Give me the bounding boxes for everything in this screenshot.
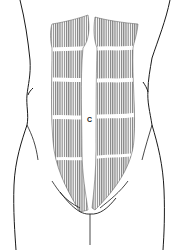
figure-label: C [87,116,92,123]
torso-side-notch-left [28,88,33,95]
abdominal-muscle-illustration [0,0,176,250]
tendinous-intersection-right-2 [92,79,140,81]
tendinous-intersection-left-4 [45,158,90,160]
rectus-abdominis-left [40,10,100,220]
torso-hip-crease-right [142,125,152,160]
rectus-abdominis-right [88,10,148,220]
tendinous-intersection-right-3 [92,114,140,117]
torso-hip-crease-left [27,125,38,160]
torso-side-notch-right [143,82,148,92]
torso-outline-right [148,0,170,250]
torso-outline-left [14,0,30,250]
